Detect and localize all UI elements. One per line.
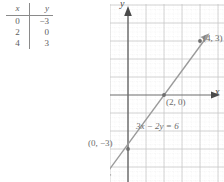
cell-x: 4 — [6, 38, 30, 49]
coordinate-graph: y x (0, −3) (2, 0) (4, 3) 3x − 2y = 6 — [110, 0, 224, 182]
y-axis-label: y — [120, 0, 124, 9]
figure-root: x y 0 −3 2 0 4 3 — [0, 0, 224, 182]
value-table: x y 0 −3 2 0 4 3 — [6, 3, 52, 49]
cell-x: 2 — [6, 27, 30, 38]
minor-gridlines — [110, 4, 224, 182]
x-axis-label: x — [215, 86, 219, 97]
cell-y: 0 — [30, 27, 54, 38]
equation-label: 3x − 2y = 6 — [136, 121, 179, 131]
point-marker-0-neg3 — [126, 147, 130, 151]
header-y: y — [30, 3, 54, 15]
point-label-2-0: (2, 0) — [166, 97, 186, 107]
cell-y: 3 — [30, 38, 54, 49]
table-row: 4 3 — [6, 38, 53, 49]
cell-y: −3 — [30, 15, 54, 27]
point-label-0-neg3: (0, −3) — [88, 138, 113, 148]
point-label-4-3: (4, 3) — [203, 33, 223, 43]
xy-table: x y 0 −3 2 0 4 3 — [6, 3, 53, 49]
graph-canvas — [110, 0, 224, 182]
cell-x: 0 — [6, 15, 30, 27]
point-marker-4-3 — [198, 39, 202, 43]
table-row: 0 −3 — [6, 15, 53, 27]
header-x: x — [6, 3, 30, 15]
table-row: 2 0 — [6, 27, 53, 38]
table-header-row: x y — [6, 3, 53, 15]
